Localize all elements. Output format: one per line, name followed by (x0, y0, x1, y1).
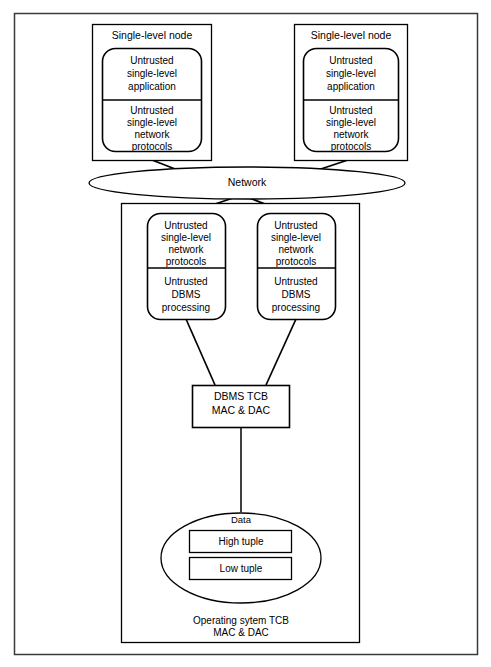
server-left-dbms-line3: processing (162, 302, 210, 313)
server-left-net-line1: Untrusted (164, 220, 207, 231)
server-left-net-line3: network (168, 244, 204, 255)
server-right-net-line3: network (278, 244, 314, 255)
left-node-net-line1: Untrusted (130, 105, 173, 116)
left-node-net-line2: single-level (127, 117, 177, 128)
left-node-app-line1: Untrusted (130, 55, 173, 66)
low-tuple-label: Low tuple (220, 563, 263, 574)
high-tuple-label: High tuple (218, 536, 263, 547)
left-node-app-line3: application (128, 81, 176, 92)
server-left-net-line2: single-level (161, 232, 211, 243)
right-node-app-line3: application (327, 81, 375, 92)
os-tcb-line1: Operating sytem TCB (193, 615, 289, 626)
os-tcb-line2: MAC & DAC (213, 627, 269, 638)
left-node-title: Single-level node (112, 29, 193, 41)
right-node-app-line1: Untrusted (329, 55, 372, 66)
server-right-net-line1: Untrusted (274, 220, 317, 231)
diagram-root: Network Single-level node Untrusted sing… (0, 0, 491, 667)
data-label: Data (231, 514, 252, 525)
network-label: Network (228, 176, 267, 188)
server-right-net-line2: single-level (271, 232, 321, 243)
server-left-dbms-line2: DBMS (172, 289, 201, 300)
right-node-app-line2: single-level (326, 68, 376, 79)
left-node-app-line2: single-level (127, 68, 177, 79)
dbms-tcb-line2: MAC & DAC (212, 404, 271, 416)
dbms-tcb-line1: DBMS TCB (214, 390, 268, 402)
right-node-net-line1: Untrusted (329, 105, 372, 116)
server-right-dbms-line3: processing (272, 302, 320, 313)
server-left-net-line4: protocols (166, 256, 207, 267)
server-right-dbms-line2: DBMS (282, 289, 311, 300)
right-node-title: Single-level node (311, 29, 392, 41)
right-node-net-line3: network (333, 129, 369, 140)
right-node-net-line2: single-level (326, 117, 376, 128)
right-node-net-line4: protocols (331, 141, 372, 152)
left-node-net-line4: protocols (132, 141, 173, 152)
left-node-net-line3: network (134, 129, 170, 140)
server-right-dbms-line1: Untrusted (274, 276, 317, 287)
server-left-dbms-line1: Untrusted (164, 276, 207, 287)
server-right-net-line4: protocols (276, 256, 317, 267)
security-architecture-diagram: Network Single-level node Untrusted sing… (0, 0, 491, 667)
